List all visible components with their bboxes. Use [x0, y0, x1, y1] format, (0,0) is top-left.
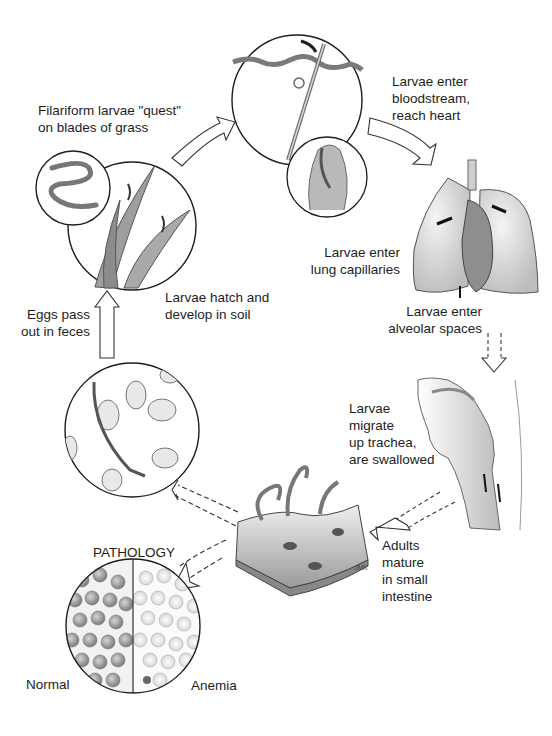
eggs-illustration [63, 363, 199, 497]
label-eggs-pass: Eggs pass out in feces [8, 306, 90, 340]
lungs-heart-illustration [413, 160, 538, 298]
small-intestine-illustration: JMK [236, 467, 368, 596]
label-migrate-trachea: Larvae migrate up trachea, are swallowed [349, 400, 435, 468]
label-pathology-title: PATHOLOGY [93, 544, 175, 561]
skin-penetration-illustration [232, 35, 367, 217]
label-filariform-larvae-quest: Filariform larvae "quest" on blades of g… [38, 102, 181, 136]
label-larvae-hatch: Larvae hatch and develop in soil [165, 289, 269, 323]
label-normal: Normal [26, 676, 70, 693]
grass-illustration [36, 151, 196, 290]
label-adults-mature: Adults mature in small intestine [382, 537, 432, 605]
label-alveolar-spaces: Larvae enter alveolar spaces [370, 303, 482, 337]
label-lung-capillaries: Larvae enter lung capillaries [300, 244, 400, 278]
label-enter-bloodstream: Larvae enter bloodstream, reach heart [392, 73, 470, 124]
label-anemia: Anemia [191, 677, 237, 694]
svg-text:JMK: JMK [353, 564, 368, 571]
